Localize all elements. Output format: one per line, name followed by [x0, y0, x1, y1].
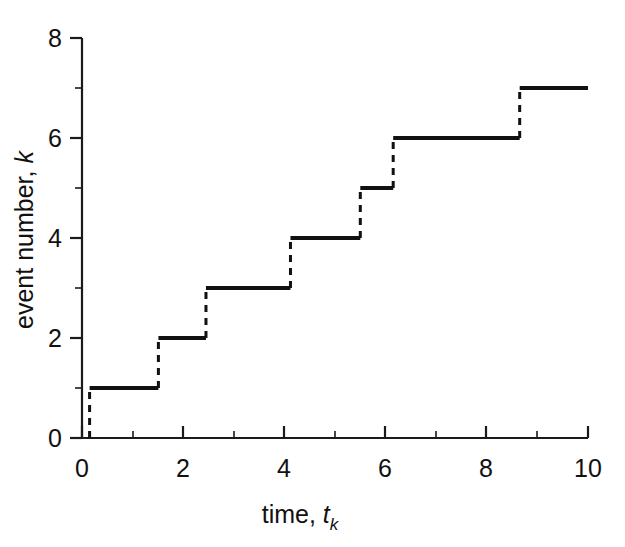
x-axis-title-main: time,: [262, 500, 316, 528]
svg-text:event number, k: event number, k: [10, 150, 38, 329]
x-ticklabel-4: 4: [277, 454, 291, 482]
y-ticklabel-2: 2: [48, 324, 62, 352]
x-ticklabel-10: 10: [574, 454, 602, 482]
x-ticklabel-2: 2: [176, 454, 190, 482]
y-ticklabel-6: 6: [48, 124, 62, 152]
y-ticklabel-0: 0: [48, 424, 62, 452]
y-ticklabel-8: 8: [48, 24, 62, 52]
step-plot: 0 2 4 6 8 0 2 4 6 8: [0, 0, 625, 547]
x-ticklabel-6: 6: [378, 454, 392, 482]
x-ticklabel-8: 8: [479, 454, 493, 482]
y-axis-title-var: k: [10, 150, 38, 164]
y-axis-title-main: event number,: [10, 171, 38, 329]
y-ticklabel-4: 4: [48, 224, 62, 252]
chart-figure: 0 2 4 6 8 0 2 4 6 8: [0, 0, 625, 547]
plot-background: [0, 0, 625, 547]
x-ticklabel-0: 0: [75, 454, 89, 482]
y-axis-title: event number, k: [10, 150, 38, 329]
